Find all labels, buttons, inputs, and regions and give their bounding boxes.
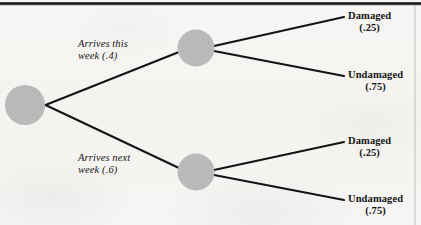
outcome-lower-undamaged: Undamaged (.75) [348, 193, 403, 216]
branch-label-line1: Arrives this [78, 38, 128, 50]
root-chance-node [5, 85, 45, 125]
top-rule [0, 2, 421, 5]
decision-tree-graphic [0, 0, 421, 225]
outcome-probability: (.75) [348, 205, 403, 217]
outcome-probability: (.25) [348, 22, 391, 34]
outcome-label: Damaged [348, 135, 391, 147]
outcome-lower-damaged: Damaged (.25) [348, 135, 391, 158]
branch-label-line1: Arrives next [78, 152, 130, 164]
branch-line-lower-undamaged [214, 175, 344, 200]
outcome-label: Damaged [348, 10, 391, 22]
branch-label-arrives-next-week: Arrives next week (.6) [78, 152, 130, 176]
outcome-probability: (.25) [348, 147, 391, 159]
branch-line-upper-undamaged [214, 51, 344, 76]
outcome-label: Undamaged [348, 69, 403, 81]
upper-chance-node [178, 30, 215, 67]
right-margin-rule [415, 5, 416, 225]
branch-label-line2: week (.4) [78, 50, 128, 62]
outcome-probability: (.75) [348, 81, 403, 93]
branch-line-lower-damaged [214, 142, 344, 170]
top-rule-shadow [0, 5, 421, 6]
outcome-upper-undamaged: Undamaged (.75) [348, 69, 403, 92]
outcome-label: Undamaged [348, 193, 403, 205]
outcome-upper-damaged: Damaged (.25) [348, 10, 391, 33]
branch-label-arrives-this-week: Arrives this week (.4) [78, 38, 128, 62]
lower-chance-node [178, 154, 215, 191]
decision-tree-figure: Arrives this week (.4) Arrives next week… [0, 0, 421, 225]
branch-line-upper-damaged [214, 17, 344, 46]
branch-label-line2: week (.6) [78, 164, 130, 176]
